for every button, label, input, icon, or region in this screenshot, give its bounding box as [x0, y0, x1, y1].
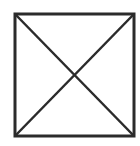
square-x-diagram [0, 0, 140, 146]
